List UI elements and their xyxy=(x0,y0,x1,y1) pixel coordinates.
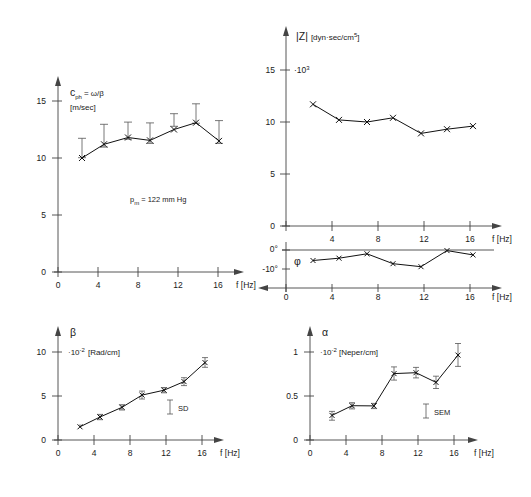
beta-error-legend: SD xyxy=(167,400,189,414)
beta-ytick-5: 5 xyxy=(41,391,46,401)
phase-ytick-m10: -10° xyxy=(262,264,278,274)
cph-units: [m/sec] xyxy=(70,103,96,112)
attenuation-constant-panel: 0 0.5 1 ·10-2[Neper/cm] α 0 4 8 12 16 f … xyxy=(262,318,512,488)
x-axis-arrow-lower xyxy=(492,285,502,291)
phase-symbol: φ xyxy=(294,255,301,267)
cph-symbol-rest: = ω/β xyxy=(84,89,104,98)
phase-xtick-12: 12 xyxy=(419,292,429,302)
svg-text:|Z|[dyn·sec/cm5]: |Z|[dyn·sec/cm5] xyxy=(296,30,360,42)
imp-scale-exp: 3 xyxy=(306,65,310,71)
imp-markers xyxy=(310,101,476,136)
alpha-error-legend: SEM xyxy=(423,404,450,418)
alpha-ytick-1: 1 xyxy=(293,347,298,357)
cph-errorbars xyxy=(78,104,223,158)
imp-yaxis-label: |Z|[dyn·sec/cm5] xyxy=(296,30,360,42)
cph-xtick-16: 16 xyxy=(213,280,223,290)
alpha-symbol: α xyxy=(322,326,328,338)
cph-anno-sub: m xyxy=(134,200,139,206)
cph-anno-rest: = 122 mm Hg xyxy=(141,195,186,204)
cph-ytick-15: 15 xyxy=(37,96,47,106)
y-axis-arrow xyxy=(55,76,61,86)
phase-constant-panel: 0 5 10 ·10-2[Rad/cm] β 0 4 8 12 16 f [Hz… xyxy=(14,318,254,488)
alpha-xtick-8: 8 xyxy=(380,448,385,458)
y-axis-arrow xyxy=(55,326,61,336)
phase-xtick-0: 0 xyxy=(284,292,289,302)
beta-error-legend-label: SD xyxy=(178,404,189,413)
cph-ytick-0: 0 xyxy=(41,267,46,277)
x-axis-arrow xyxy=(468,437,478,443)
phase-xtick-16: 16 xyxy=(465,292,475,302)
beta-xtick-4: 4 xyxy=(92,448,97,458)
imp-units: [dyn·sec/cm xyxy=(311,33,354,42)
beta-scale-exp: -2 xyxy=(80,347,86,353)
beta-xtick-0: 0 xyxy=(56,448,61,458)
svg-text:pm= 122 mm Hg: pm= 122 mm Hg xyxy=(130,195,186,206)
phase-axes xyxy=(258,242,502,292)
alpha-y-ticks: 0 0.5 1 ·10-2[Neper/cm] α xyxy=(286,326,378,445)
x-axis-arrow xyxy=(234,269,244,275)
svg-text:cph= ω/β: cph= ω/β xyxy=(70,86,104,100)
imp-y-ticks: 0 5 10 15 ·103 xyxy=(266,65,311,231)
alpha-xtick-0: 0 xyxy=(308,448,313,458)
imp-ytick-0: 0 xyxy=(270,221,275,231)
beta-units: [Rad/cm] xyxy=(88,348,120,357)
phase-x-ticks: 0 4 8 12 16 f [Hz] xyxy=(284,284,512,302)
beta-scale-units: ·10-2[Rad/cm] xyxy=(68,347,120,357)
cph-ytick-5: 5 xyxy=(41,210,46,220)
imp-symbol: |Z| xyxy=(296,30,308,42)
alpha-xtick-12: 12 xyxy=(413,448,423,458)
cph-xaxis-label: f [Hz] xyxy=(236,280,256,290)
cph-ytick-10: 10 xyxy=(37,153,47,163)
beta-xtick-16: 16 xyxy=(197,448,207,458)
alpha-ytick-05: 0.5 xyxy=(286,391,298,401)
beta-y-ticks: 0 5 10 ·10-2[Rad/cm] β xyxy=(37,326,120,445)
beta-xtick-8: 8 xyxy=(128,448,133,458)
alpha-xtick-16: 16 xyxy=(449,448,459,458)
cph-symbol-sub: ph xyxy=(75,94,82,100)
phase-xtick-8: 8 xyxy=(376,292,381,302)
alpha-scale-exp: -2 xyxy=(332,347,338,353)
imp-ytick-15: 15 xyxy=(266,65,276,75)
beta-x-ticks: 0 4 8 12 16 f [Hz] xyxy=(56,435,240,458)
phase-y-ticks: 0° -10° φ xyxy=(262,244,301,274)
phase-xaxis-label: f [Hz] xyxy=(492,292,512,302)
cph-x-ticks: 0 4 8 12 16 xyxy=(56,267,223,290)
cph-annotation: pm= 122 mm Hg xyxy=(130,195,186,206)
beta-ytick-0: 0 xyxy=(41,435,46,445)
phase-velocity-panel: 0 5 10 15 0 4 8 12 16 f [Hz] cph= ω/β [m… xyxy=(14,62,254,294)
imp-ytick-10: 10 xyxy=(266,117,276,127)
alpha-axes xyxy=(306,326,478,443)
cph-xtick-0: 0 xyxy=(56,280,61,290)
beta-xtick-12: 12 xyxy=(161,448,171,458)
imp-units-close: ] xyxy=(357,33,359,42)
alpha-xtick-4: 4 xyxy=(344,448,349,458)
cph-yaxis-label: cph= ω/β [m/sec] xyxy=(70,86,104,112)
alpha-xaxis-label: f [Hz] xyxy=(474,448,494,458)
beta-xaxis-label: f [Hz] xyxy=(220,448,240,458)
y-axis-arrow xyxy=(307,326,313,336)
impedance-phase-panel: 0° -10° φ 0 4 8 12 16 f [Hz] xyxy=(258,236,520,300)
imp-ytick-5: 5 xyxy=(270,169,275,179)
alpha-units: [Neper/cm] xyxy=(339,348,378,357)
phase-ytick-0: 0° xyxy=(270,244,278,254)
x-axis-arrow-left xyxy=(258,285,268,291)
phase-xtick-4: 4 xyxy=(330,292,335,302)
cph-xtick-12: 12 xyxy=(173,280,183,290)
alpha-scale-units: ·10-2[Neper/cm] xyxy=(320,347,378,357)
alpha-x-ticks: 0 4 8 12 16 f [Hz] xyxy=(308,435,494,458)
imp-scale-prefix: ·10 xyxy=(294,65,307,75)
beta-symbol: β xyxy=(70,326,76,338)
imp-data-line xyxy=(313,104,473,133)
imp-scale-factor: ·103 xyxy=(294,65,310,75)
cph-xtick-8: 8 xyxy=(136,280,141,290)
alpha-scale-prefix: ·10 xyxy=(320,348,332,357)
imp-axes xyxy=(282,26,502,229)
x-axis-arrow xyxy=(214,437,224,443)
beta-axes xyxy=(54,326,224,443)
beta-scale-prefix: ·10 xyxy=(68,348,80,357)
y-axis-arrow xyxy=(283,26,289,36)
impedance-modulus-panel: 0 5 10 15 ·103 4 8 12 16 f [Hz] |Z|[dyn·… xyxy=(258,14,520,242)
alpha-ytick-0: 0 xyxy=(293,435,298,445)
x-axis-arrow xyxy=(492,223,502,229)
beta-ytick-10: 10 xyxy=(37,347,47,357)
